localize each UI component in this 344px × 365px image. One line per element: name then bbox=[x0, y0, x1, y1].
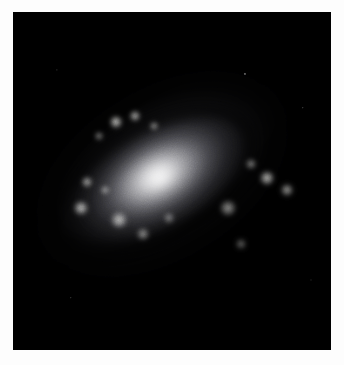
galaxy-photograph-plate bbox=[13, 12, 331, 350]
plate-vignette bbox=[13, 12, 331, 350]
page-root bbox=[0, 0, 344, 365]
figure-caption bbox=[0, 0, 1, 1]
